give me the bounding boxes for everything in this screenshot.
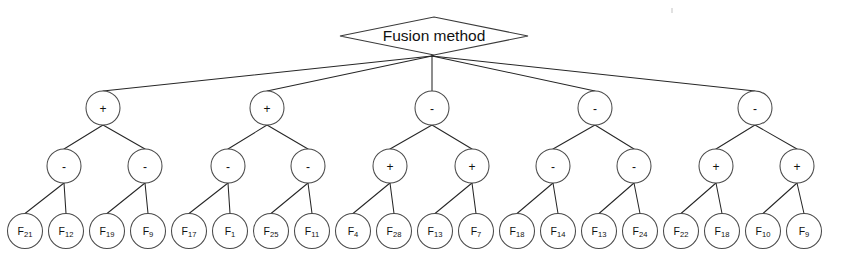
operator-node-l3-6[interactable]: -: [536, 149, 570, 183]
level3-to-leaf-edge-13: [553, 183, 558, 214]
operator-node-l3-0[interactable]: -: [47, 149, 81, 183]
leaf-node-5[interactable]: F1: [213, 214, 248, 249]
leaf-node-0[interactable]: F21: [8, 214, 43, 249]
level2-to-level3-edge-1: [103, 125, 145, 149]
operator-node-l3-4[interactable]: +: [373, 149, 407, 183]
leaf-node-3[interactable]: F9: [131, 214, 166, 249]
level2-edge-group: [64, 125, 797, 149]
operator-node-l3-label-7: -: [632, 160, 636, 174]
operator-node-l3-7[interactable]: -: [617, 149, 651, 183]
level3-node-group: ----++--++: [47, 149, 814, 183]
level2-to-level3-edge-6: [553, 125, 595, 149]
operator-node-l3-8[interactable]: +: [699, 149, 733, 183]
level3-to-leaf-edge-14: [599, 183, 634, 214]
operator-node-l2-label-3: -: [593, 102, 597, 116]
leaf-node-18[interactable]: F10: [746, 214, 781, 249]
leaf-node-6[interactable]: F25: [254, 214, 289, 249]
root-to-level2-edge-0: [103, 56, 432, 91]
operator-node-l3-label-8: +: [712, 160, 719, 174]
leaf-node-8[interactable]: F4: [336, 214, 371, 249]
operator-node-l3-9[interactable]: +: [780, 149, 814, 183]
level3-to-leaf-edge-10: [435, 183, 472, 214]
level3-to-leaf-edge-19: [797, 183, 804, 214]
level2-to-level3-edge-4: [390, 125, 432, 149]
leaf-node-2[interactable]: F19: [90, 214, 125, 249]
root-to-level2-edge-1: [267, 56, 432, 91]
operator-node-l3-label-1: -: [143, 160, 147, 174]
operator-node-l2-4[interactable]: -: [738, 91, 772, 125]
level3-to-leaf-edge-17: [716, 183, 722, 214]
operator-node-l2-label-2: -: [430, 102, 434, 116]
leaf-node-10[interactable]: F13: [418, 214, 453, 249]
operator-node-l3-label-0: -: [62, 160, 66, 174]
operator-node-l3-label-2: -: [226, 160, 230, 174]
level3-to-leaf-edge-2: [107, 183, 145, 214]
leaf-node-15[interactable]: F24: [623, 214, 658, 249]
operator-node-l2-3[interactable]: -: [578, 91, 612, 125]
level2-to-level3-edge-3: [267, 125, 308, 149]
level3-to-leaf-edge-9: [390, 183, 394, 214]
operator-node-l2-label-4: -: [753, 102, 757, 116]
level3-to-leaf-edge-4: [189, 183, 228, 214]
operator-node-l3-label-9: +: [793, 160, 800, 174]
leaf-node-4[interactable]: F17: [172, 214, 207, 249]
level2-to-level3-edge-0: [64, 125, 103, 149]
operator-node-l2-0[interactable]: +: [86, 91, 120, 125]
operator-node-l2-label-0: +: [99, 102, 106, 116]
operator-node-l3-2[interactable]: -: [211, 149, 245, 183]
leaf-node-11[interactable]: F7: [459, 214, 494, 249]
leaf-node-group: F21F12F19F9F17F1F25F11F4F28F13F7F18F14F1…: [8, 214, 822, 249]
scan-artifact-speck: [671, 8, 673, 13]
operator-node-l2-1[interactable]: +: [250, 91, 284, 125]
level3-to-leaf-edge-12: [517, 183, 553, 214]
root-node[interactable]: Fusion method: [340, 17, 528, 55]
level2-to-level3-edge-8: [716, 125, 755, 149]
root-to-level2-edge-4: [432, 56, 755, 91]
leaf-node-1[interactable]: F12: [49, 214, 84, 249]
level3-to-leaf-edge-5: [228, 183, 230, 214]
level3-to-leaf-edge-3: [145, 183, 148, 214]
operator-node-l3-label-5: +: [468, 160, 475, 174]
level2-to-level3-edge-9: [755, 125, 797, 149]
level3-to-leaf-edge-18: [763, 183, 797, 214]
fusion-method-tree-figure: Fusion method ++--- ----++--++ F21F12F19…: [0, 0, 857, 258]
leaf-node-12[interactable]: F18: [500, 214, 535, 249]
level2-node-group: ++---: [86, 91, 772, 125]
leaf-node-16[interactable]: F22: [664, 214, 699, 249]
level3-to-leaf-edge-7: [308, 183, 312, 214]
level3-to-leaf-edge-0: [25, 183, 64, 214]
leaf-node-19[interactable]: F9: [787, 214, 822, 249]
level3-to-leaf-edge-6: [271, 183, 308, 214]
level2-to-level3-edge-5: [432, 125, 472, 149]
level3-to-leaf-edge-15: [634, 183, 640, 214]
leaf-node-13[interactable]: F14: [541, 214, 576, 249]
level2-to-level3-edge-7: [595, 125, 634, 149]
level3-edge-group: [25, 183, 804, 214]
operator-node-l2-2[interactable]: -: [415, 91, 449, 125]
level3-to-leaf-edge-1: [64, 183, 66, 214]
operator-node-l2-label-1: +: [263, 102, 270, 116]
tree-canvas: Fusion method ++--- ----++--++ F21F12F19…: [0, 0, 857, 258]
level3-to-leaf-edge-8: [353, 183, 390, 214]
level3-to-leaf-edge-16: [681, 183, 716, 214]
operator-node-l3-3[interactable]: -: [291, 149, 325, 183]
root-label: Fusion method: [383, 27, 486, 44]
level3-to-leaf-edge-11: [472, 183, 476, 214]
operator-node-l3-1[interactable]: -: [128, 149, 162, 183]
leaf-node-17[interactable]: F18: [705, 214, 740, 249]
root-edge-group: [103, 55, 755, 91]
operator-node-l3-label-6: -: [551, 160, 555, 174]
level2-to-level3-edge-2: [228, 125, 267, 149]
operator-node-l3-label-3: -: [306, 160, 310, 174]
leaf-node-14[interactable]: F13: [582, 214, 617, 249]
leaf-node-9[interactable]: F28: [377, 214, 412, 249]
root-to-level2-edge-3: [432, 56, 595, 91]
operator-node-l3-5[interactable]: +: [455, 149, 489, 183]
leaf-node-7[interactable]: F11: [295, 214, 330, 249]
operator-node-l3-label-4: +: [386, 160, 393, 174]
